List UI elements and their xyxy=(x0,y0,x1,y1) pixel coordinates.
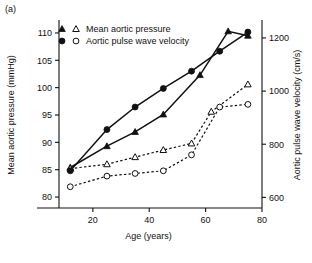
data-series xyxy=(67,81,251,171)
x-axis-tick-label: 40 xyxy=(144,215,154,225)
data-point-marker xyxy=(132,104,138,110)
data-point-marker xyxy=(217,48,223,54)
series-group xyxy=(67,28,251,190)
x-axis-tick-label: 60 xyxy=(201,215,211,225)
y-axis-right-tick-label: 600 xyxy=(269,193,284,203)
data-point-marker xyxy=(104,161,111,167)
data-series xyxy=(67,29,251,174)
data-point-marker xyxy=(132,129,139,135)
data-point-marker xyxy=(160,85,166,91)
data-point-marker xyxy=(245,81,252,87)
y-axis-left-tick-label: 90 xyxy=(42,138,52,148)
data-point-marker xyxy=(160,168,166,174)
data-point-marker xyxy=(189,68,195,74)
data-point-marker xyxy=(67,184,73,190)
data-point-marker xyxy=(189,152,195,158)
y-axis-right-title: Aortic pulse wave velocity (cm/s) xyxy=(292,50,302,181)
legend-label: Aortic pulse wave velocity xyxy=(86,36,190,46)
y-axis-left-tick-label: 110 xyxy=(38,28,52,38)
data-point-marker xyxy=(132,154,139,160)
y-axis-left-tick-label: 80 xyxy=(42,192,52,202)
legend-group: Mean aortic pressureAortic pulse wave ve… xyxy=(59,24,190,46)
y-axis-right-tick-label: 1200 xyxy=(269,33,289,43)
data-point-marker xyxy=(225,28,232,34)
y-axis-left-tick-label: 105 xyxy=(37,56,52,66)
x-axis-tick-label: 80 xyxy=(257,215,267,225)
data-point-marker xyxy=(217,104,223,110)
data-series xyxy=(67,101,250,189)
y-axis-right-tick-label: 800 xyxy=(269,140,284,150)
y-axis-left-tick-label: 85 xyxy=(42,165,52,175)
legend-label: Mean aortic pressure xyxy=(86,24,171,34)
series-line xyxy=(70,84,248,168)
legend-symbol-filled xyxy=(59,26,66,32)
legend-symbol-open xyxy=(73,38,79,44)
x-axis-title: Age (years) xyxy=(125,231,172,241)
data-point-marker xyxy=(104,173,110,179)
data-point-marker xyxy=(208,108,215,114)
data-point-marker xyxy=(67,168,73,174)
x-axis-tick-label: 20 xyxy=(88,215,98,225)
data-point-marker xyxy=(245,29,251,35)
legend-symbol-filled xyxy=(59,38,65,44)
legend-symbol-open xyxy=(73,26,80,32)
y-axis-left-title: Mean aortic pressure (mmHg) xyxy=(6,55,16,175)
y-axis-right-tick-label: 1000 xyxy=(269,86,289,96)
chart-canvas: 808590951001051106008001000120020406080A… xyxy=(0,0,312,263)
data-point-marker xyxy=(245,101,251,107)
data-point-marker xyxy=(104,127,110,133)
y-axis-left-tick-label: 95 xyxy=(42,110,52,120)
data-point-marker xyxy=(188,140,195,146)
data-point-marker xyxy=(132,171,138,177)
axes-group: 808590951001051106008001000120020406080A… xyxy=(6,20,302,241)
y-axis-left-tick-label: 100 xyxy=(37,83,52,93)
